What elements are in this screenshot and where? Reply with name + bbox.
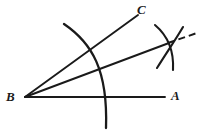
geometry-canvas (0, 0, 205, 133)
vertex-label-c: C (137, 3, 146, 16)
vertex-label-a: A (171, 89, 180, 102)
figure-background (0, 0, 205, 133)
geometry-figure: B A C (0, 0, 205, 133)
vertex-label-b: B (6, 90, 15, 103)
